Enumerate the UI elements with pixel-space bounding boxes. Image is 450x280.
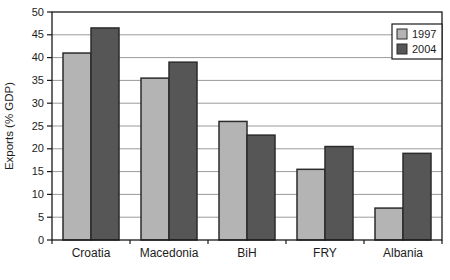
bar-chart: Exports (% GDP) 05101520253035404550Croa… [0, 0, 450, 280]
y-tick-label: 15 [32, 165, 44, 177]
bar-croatia-2004 [91, 28, 119, 240]
x-category-label: Albania [383, 246, 423, 260]
x-category-label: Macedonia [140, 246, 199, 260]
legend-label-2004: 2004 [412, 43, 436, 55]
y-tick-label: 30 [32, 97, 44, 109]
y-tick-label: 45 [32, 28, 44, 40]
y-tick-label: 25 [32, 120, 44, 132]
y-tick-label: 40 [32, 51, 44, 63]
legend-swatch-1997 [397, 29, 407, 39]
bar-bih-2004 [247, 135, 275, 240]
bar-albania-2004 [403, 153, 431, 240]
bar-bih-1997 [219, 121, 247, 240]
bar-chart-figure: Exports (% GDP) 05101520253035404550Croa… [0, 0, 450, 280]
x-category-label: FRY [313, 246, 337, 260]
bar-macedonia-1997 [141, 78, 169, 240]
legend-swatch-2004 [397, 44, 407, 54]
y-tick-label: 0 [38, 234, 44, 246]
bar-croatia-1997 [63, 53, 91, 240]
x-category-label: BiH [237, 246, 256, 260]
y-tick-label: 35 [32, 74, 44, 86]
y-axis-title: Exports (% GDP) [3, 82, 15, 170]
y-tick-label: 20 [32, 142, 44, 154]
y-tick-label: 10 [32, 188, 44, 200]
legend-label-1997: 1997 [412, 28, 436, 40]
y-tick-label: 50 [32, 6, 44, 18]
x-category-label: Croatia [72, 246, 111, 260]
bar-fry-2004 [325, 147, 353, 240]
bar-albania-1997 [375, 208, 403, 240]
bar-macedonia-2004 [169, 62, 197, 240]
y-tick-label: 5 [38, 211, 44, 223]
bar-fry-1997 [297, 169, 325, 240]
